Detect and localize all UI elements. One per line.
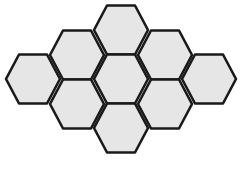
hexagon-middle-left	[6, 55, 60, 104]
hexagon-bottom	[94, 104, 148, 153]
hexagon-upper-left	[50, 31, 104, 80]
hexagon-middle-right	[182, 55, 236, 104]
hexagon-top	[94, 6, 148, 55]
hexagon-center	[94, 55, 148, 104]
hexagon-diagram	[0, 0, 246, 172]
hexagon-upper-right	[138, 31, 192, 80]
hexagon-lower-right	[138, 80, 192, 129]
hexagon-lower-left	[50, 80, 104, 129]
